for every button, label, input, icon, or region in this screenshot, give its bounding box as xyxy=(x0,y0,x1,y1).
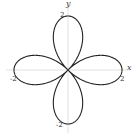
left-tick-label: -2 xyxy=(10,76,17,83)
top-tick-label: 2 xyxy=(60,12,64,19)
rose-plot xyxy=(0,0,138,135)
right-tick-label: 2 xyxy=(120,76,124,83)
y-axis-label: y xyxy=(66,0,71,8)
bottom-tick-label: -2 xyxy=(56,122,63,129)
x-axis-label: x xyxy=(127,64,132,72)
